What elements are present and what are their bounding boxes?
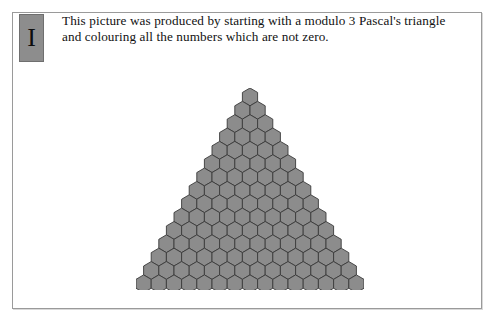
hexagon-triangle-svg	[136, 88, 364, 290]
modulo-3-pascal-triangle-figure	[136, 88, 364, 290]
info-badge: I	[19, 14, 44, 62]
letter-i-icon: I	[27, 25, 36, 51]
figure-caption: This picture was produced by starting wi…	[62, 13, 451, 44]
figure-page: I This picture was produced by starting …	[0, 0, 496, 323]
hexagon-cells	[136, 88, 364, 290]
caption-row: I This picture was produced by starting …	[19, 13, 451, 62]
